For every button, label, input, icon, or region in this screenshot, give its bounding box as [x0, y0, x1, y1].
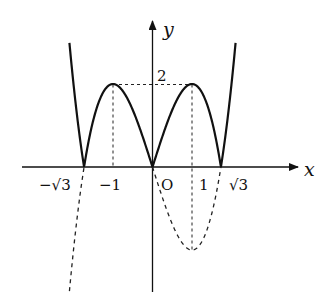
y-axis-label: y	[162, 18, 174, 40]
x-tick-neg-sqrt3: −√3	[39, 176, 71, 194]
x-tick-sqrt3: √3	[229, 176, 248, 194]
dashed-curve-left	[69, 167, 84, 291]
x-axis-label: x	[304, 158, 315, 180]
y-tick-2: 2	[157, 67, 167, 85]
origin-label: O	[161, 176, 173, 194]
x-tick-1: 1	[199, 176, 209, 194]
function-graph: y x O 2 −√3 −1 1 √3	[0, 0, 335, 306]
x-tick-neg1: −1	[99, 176, 121, 194]
